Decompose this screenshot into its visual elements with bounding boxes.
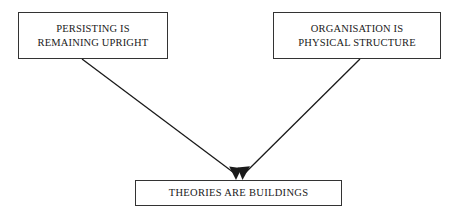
arrowhead-right (238, 166, 251, 180)
arrowhead-left (229, 167, 241, 180)
node-organisation-is-physical-structure: ORGANISATION IS PHYSICAL STRUCTURE (273, 12, 441, 59)
node-label: ORGANISATION IS PHYSICAL STRUCTURE (294, 22, 420, 49)
node-persisting-is-remaining-upright: PERSISTING IS REMAINING UPRIGHT (18, 12, 168, 59)
node-label: THEORIES ARE BUILDINGS (165, 186, 313, 200)
edge-organisation-to-theories (238, 59, 361, 180)
edge-line-right (246, 59, 361, 173)
edge-line-left (82, 59, 234, 173)
edge-persisting-to-theories (82, 59, 242, 180)
node-label: PERSISTING IS REMAINING UPRIGHT (34, 22, 153, 49)
node-theories-are-buildings: THEORIES ARE BUILDINGS (135, 180, 342, 206)
diagram-canvas: PERSISTING IS REMAINING UPRIGHT ORGANISA… (0, 0, 459, 220)
